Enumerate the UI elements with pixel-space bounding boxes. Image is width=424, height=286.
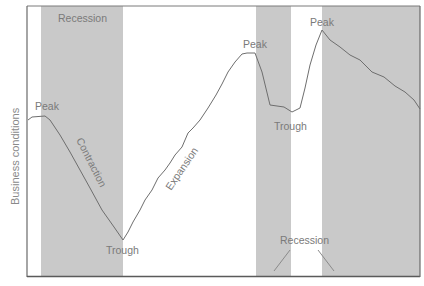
peak-label-1: Peak — [35, 100, 60, 112]
expansion-label: Expansion — [163, 145, 200, 192]
recession-label-top: Recession — [58, 12, 107, 24]
business-cycle-chart: Business conditions Recession Peak Contr… — [0, 0, 424, 286]
trough-label-2: Trough — [274, 120, 307, 132]
recession-band-3 — [322, 6, 420, 276]
recession-label-bottom: Recession — [280, 234, 329, 246]
peak-label-3: Peak — [310, 16, 335, 28]
peak-label-2: Peak — [243, 38, 268, 50]
y-axis-label: Business conditions — [9, 107, 21, 205]
trough-label-1: Trough — [106, 244, 139, 256]
